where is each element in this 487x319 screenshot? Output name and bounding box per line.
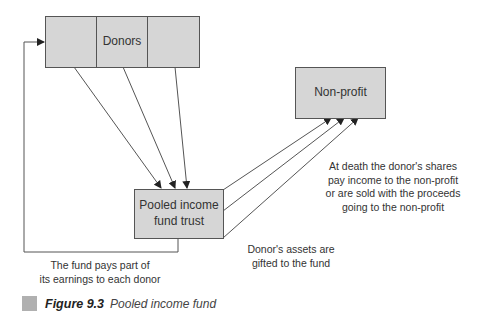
assets-gifted-annotation: Donor's assets are gifted to the fund [226,243,356,270]
donors-label: Donors [103,34,142,50]
fund-pays-annotation: The fund pays part of its earnings to ea… [30,259,170,286]
fund-pays-line2: its earnings to each donor [30,273,170,287]
pooled-trust-label-line1: Pooled income [139,198,218,214]
arrow-donor1-to-trust [74,67,161,188]
caption-swatch-icon [22,296,37,311]
pooled-trust-box: Pooled income fund trust [134,189,224,239]
at-death-line4: going to the non-profit [318,201,468,215]
assets-gifted-line2: gifted to the fund [226,257,356,271]
fund-pays-line1: The fund pays part of [30,259,170,273]
at-death-line1: At death the donor's shares [318,160,468,174]
figure-number: Figure 9.3 [45,297,104,311]
arrow-trust-to-nonprofit-1 [223,118,331,190]
non-profit-box: Non-profit [295,67,386,119]
donor-cell-3 [147,16,200,68]
donor-cell-1 [45,16,97,68]
at-death-line2: pay income to the non-profit [318,174,468,188]
arrow-donor2-to-trust [123,67,175,188]
pooled-trust-label-line2: fund trust [154,214,204,230]
arrow-donor3-to-trust [175,67,187,188]
figure-title: Pooled income fund [110,297,216,311]
at-death-line3: or are sold with the proceeds [318,187,468,201]
assets-gifted-line1: Donor's assets are [226,243,356,257]
non-profit-label: Non-profit [314,85,367,101]
figure-caption: Figure 9.3 Pooled income fund [22,296,216,311]
donor-cell-2: Donors [96,16,148,68]
donors-box: Donors [45,16,200,68]
at-death-annotation: At death the donor's shares pay income t… [318,160,468,215]
